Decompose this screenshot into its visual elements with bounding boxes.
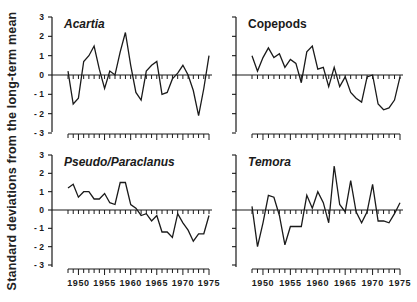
x-tick-label: 1950	[252, 278, 274, 288]
y-tick-label: 2	[39, 168, 44, 178]
series-line	[68, 33, 209, 116]
panel-bottom-right: 195019551960196519701975Temora	[232, 155, 411, 288]
y-tick-label: - 3	[34, 128, 44, 138]
y-tick-label: 3	[39, 150, 44, 160]
x-tick-label: 1960	[119, 278, 141, 288]
x-tick-label: 1965	[146, 278, 168, 288]
y-tick-label: - 1	[34, 89, 44, 99]
panel-title: Temora	[248, 155, 291, 169]
y-tick-label: 3	[39, 12, 44, 22]
y-tick-label: 0	[39, 70, 44, 80]
panel-bottom-left: 3210- 1- 2- 3195019551960196519701975Pse…	[34, 150, 220, 288]
y-tick-label: - 1	[34, 223, 44, 233]
x-tick-label: 1955	[93, 278, 115, 288]
y-tick-label: - 2	[34, 242, 44, 252]
x-tick-label: 1970	[361, 278, 383, 288]
panel-title: Pseudo/Paraclanus	[64, 155, 175, 169]
panel-title: Copepods	[248, 17, 307, 31]
y-tick-label: 1	[39, 187, 44, 197]
x-tick-label: 1960	[307, 278, 329, 288]
x-tick-label: 1975	[389, 278, 411, 288]
panel-title: Acartia	[63, 17, 105, 31]
series-line	[252, 166, 400, 247]
panel-top-right: Copepods	[232, 17, 403, 140]
y-tick-label: - 3	[34, 260, 44, 270]
y-tick-label: 2	[39, 31, 44, 41]
y-tick-label: 1	[39, 51, 44, 61]
panel-top-left: 3210- 1- 2- 3Acartia	[34, 12, 212, 140]
x-tick-label: 1950	[67, 278, 89, 288]
y-tick-label: - 2	[34, 109, 44, 119]
x-tick-label: 1965	[334, 278, 356, 288]
figure-canvas: 3210- 1- 2- 3AcartiaCopepods3210- 1- 2- …	[0, 0, 417, 302]
y-tick-label: 0	[39, 205, 44, 215]
x-tick-label: 1955	[279, 278, 301, 288]
x-tick-label: 1970	[172, 278, 194, 288]
x-tick-label: 1975	[198, 278, 220, 288]
